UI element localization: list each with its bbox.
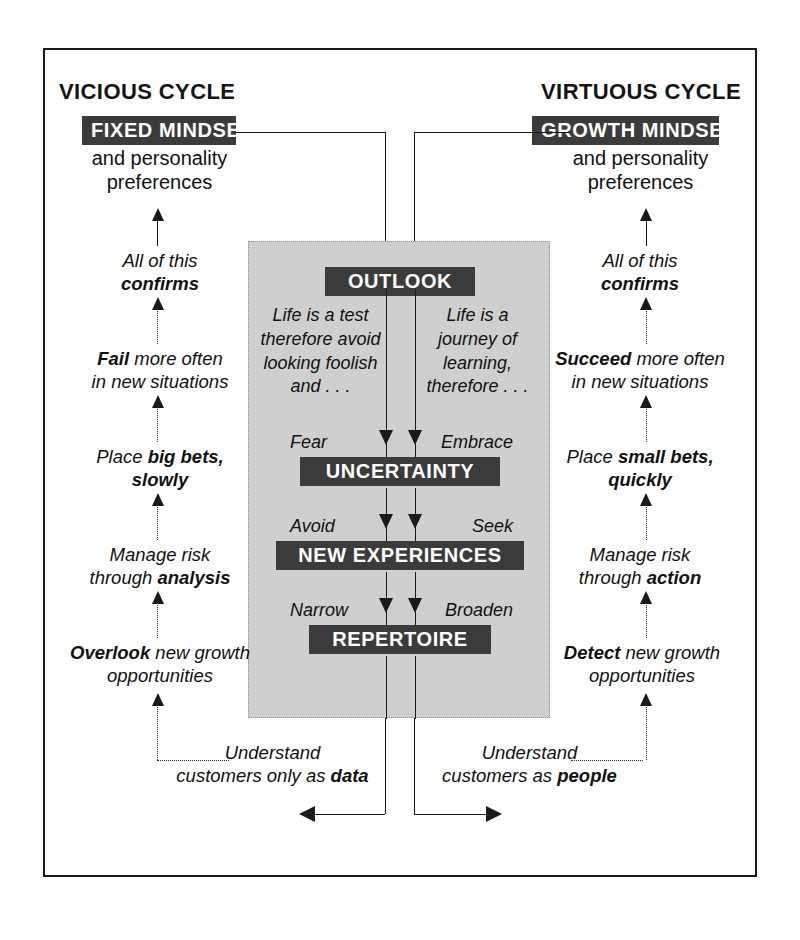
right-step-4-line1: Manage risk [535, 544, 745, 567]
arrowhead-down-new-experiences-left [379, 514, 393, 529]
right-step-1-line2: confirms [601, 273, 679, 294]
return-line-right-vertical [414, 718, 415, 814]
right-step-5-rest: new growth [620, 642, 720, 663]
left-step-5-rest: new growth [150, 642, 250, 663]
uncertainty-right-tag: Embrace [441, 432, 513, 453]
left-arrow-line-5 [157, 603, 158, 638]
right-step-2: Succeed more often in new situations [531, 348, 749, 393]
connector-fixed-to-outlook-horizontal [236, 132, 385, 133]
arrowhead-down-repertoire-left [379, 598, 393, 613]
repertoire-left-tag: Narrow [290, 600, 348, 621]
uncertainty-chip[interactable]: UNCERTAINTY [300, 457, 500, 486]
text-line: journey of [410, 328, 545, 352]
right-step-3: Place small bets, quickly [535, 446, 745, 491]
left-step-5-line2: opportunities [49, 665, 271, 688]
left-step-2-rest: more often [129, 348, 223, 369]
right-footer-line2-pre: customers as [442, 765, 557, 786]
right-arrow-line-5 [646, 603, 647, 638]
left-step-3-line2: slowly [132, 469, 189, 490]
arrowhead-up-left-5 [152, 591, 164, 604]
new-experiences-chip[interactable]: NEW EXPERIENCES [276, 541, 524, 570]
right-step-4-bold: action [647, 567, 701, 588]
arrowhead-down-uncertainty-right [408, 430, 422, 445]
left-footer: Understand customers only as data [165, 742, 380, 787]
right-footer-line1: Understand [422, 742, 637, 765]
left-arrow-line-2 [157, 309, 158, 344]
left-step-2: Fail more often in new situations [55, 348, 265, 393]
repertoire-right-tag: Broaden [445, 600, 513, 621]
right-arrow-line-1 [646, 220, 647, 246]
connector-growth-to-outlook-vertical [414, 132, 415, 259]
text-line: therefore . . . [410, 375, 545, 399]
right-step-3-bold: small bets, [618, 446, 714, 467]
right-arrow-line-4 [646, 505, 647, 540]
growth-mindset-sub-line2: preferences [538, 171, 743, 195]
connector-growth-to-outlook-horizontal [414, 132, 570, 133]
right-arrow-line-2 [646, 309, 647, 344]
left-step-4-line1: Manage risk [55, 544, 265, 567]
left-step-3: Place big bets, slowly [55, 446, 265, 491]
text-line: learning, [410, 352, 545, 376]
right-step-4: Manage risk through action [535, 544, 745, 589]
central-panel: OUTLOOK Life is a testtherefore avoidloo… [248, 241, 550, 718]
return-line-left-vertical [385, 718, 386, 814]
left-arrow-line-4 [157, 505, 158, 540]
diagram-frame: VICIOUS CYCLE VIRTUOUS CYCLE FIXED MINDS… [43, 48, 757, 877]
growth-mindset-sub-line1: and personality [538, 147, 743, 171]
arrowhead-down-repertoire-right [408, 598, 422, 613]
virtuous-cycle-title: VIRTUOUS CYCLE [541, 79, 741, 105]
left-step-1-line2: confirms [121, 273, 199, 294]
left-step-2-bold: Fail [97, 348, 129, 369]
right-arrow-line-3 [646, 407, 647, 442]
left-step-4-bold: analysis [157, 567, 230, 588]
arrowhead-up-left-4 [152, 493, 164, 506]
right-step-2-rest: more often [631, 348, 725, 369]
repertoire-chip[interactable]: REPERTOIRE [309, 625, 491, 654]
fixed-mindset-chip[interactable]: FIXED MINDSET [82, 116, 236, 145]
left-step-1: All of this confirms [55, 250, 265, 295]
text-line: and . . . [253, 375, 388, 399]
return-line-left-horizontal [314, 814, 385, 815]
left-step-4-pre: through [90, 567, 158, 588]
right-step-1: All of this confirms [535, 250, 745, 295]
right-step-1-line1: All of this [535, 250, 745, 273]
left-arrow-line-1 [157, 220, 158, 246]
text-line: Life is a test [253, 304, 388, 328]
left-step-5-bold: Overlook [70, 642, 150, 663]
text-line: Life is a [410, 304, 545, 328]
new-experiences-left-tag: Avoid [290, 516, 335, 537]
right-step-5: Detect new growth opportunities [533, 642, 751, 687]
fixed-mindset-sub-line2: preferences [57, 171, 262, 195]
arrowhead-down-uncertainty-left [379, 430, 393, 445]
text-line: therefore avoid [253, 328, 388, 352]
right-step-4-pre: through [579, 567, 647, 588]
right-step-2-bold: Succeed [555, 348, 631, 369]
left-step-2-line2: in new situations [55, 371, 265, 394]
left-step-3-bold: big bets, [148, 446, 224, 467]
left-footer-line2-pre: customers only as [176, 765, 330, 786]
right-step-3-pre: Place [566, 446, 617, 467]
arrowhead-down-new-experiences-right [408, 514, 422, 529]
arrowhead-up-left-3 [152, 395, 164, 408]
right-footer: Understand customers as people [422, 742, 637, 787]
right-arrow-line-6-vertical [646, 705, 647, 760]
left-step-5: Overlook new growth opportunities [49, 642, 271, 687]
arrowhead-left-return [299, 806, 315, 822]
left-step-3-pre: Place [96, 446, 147, 467]
text-line: looking foolish [253, 352, 388, 376]
left-footer-line1: Understand [165, 742, 380, 765]
outlook-right-text: Life is ajourney oflearning,therefore . … [410, 304, 545, 399]
connector-fixed-to-outlook-vertical [385, 132, 386, 259]
right-step-5-bold: Detect [564, 642, 621, 663]
right-step-2-line2: in new situations [531, 371, 749, 394]
outlook-left-text: Life is a testtherefore avoidlooking foo… [253, 304, 388, 399]
left-arrow-line-6-vertical [157, 705, 158, 760]
growth-mindset-chip[interactable]: GROWTH MINDSET [532, 116, 719, 145]
return-line-right-horizontal [414, 814, 486, 815]
arrowhead-up-left-2 [152, 297, 164, 310]
left-step-4: Manage risk through analysis [55, 544, 265, 589]
left-arrow-line-3 [157, 407, 158, 442]
right-step-3-line2: quickly [608, 469, 672, 490]
outlook-chip[interactable]: OUTLOOK [325, 267, 475, 296]
new-experiences-right-tag: Seek [472, 516, 513, 537]
